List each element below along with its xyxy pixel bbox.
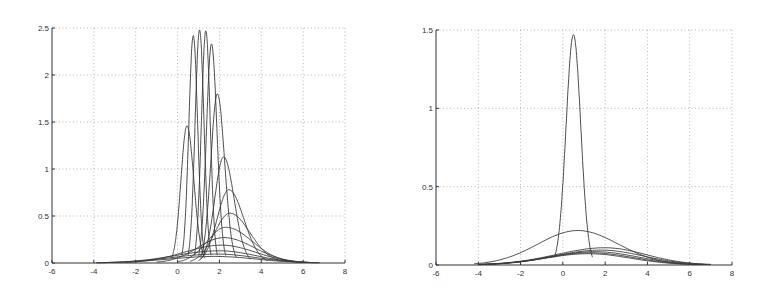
y-tick-label: 0.5 [38, 212, 50, 221]
x-tick-label: 8 [730, 269, 735, 278]
y-tick-label: 2.5 [38, 24, 50, 33]
x-tick-label: 4 [259, 267, 264, 276]
x-tick-label: -6 [432, 269, 440, 278]
y-tick-label: 0 [429, 261, 434, 270]
x-tick-label: 2 [217, 267, 222, 276]
figure-canvas: -6-4-20246800.511.522.5 -6-4-20246800.51… [0, 0, 773, 293]
y-tick-label: 0.5 [422, 183, 434, 192]
x-tick-label: 2 [603, 269, 608, 278]
y-tick-label: 1.5 [422, 26, 434, 35]
right-density-plot: -6-4-20246800.511.5 [422, 26, 735, 278]
x-tick-label: 0 [561, 269, 566, 278]
x-tick-label: 6 [301, 267, 306, 276]
y-tick-label: 1 [45, 165, 50, 174]
x-tick-label: -2 [517, 269, 525, 278]
x-tick-label: 4 [645, 269, 650, 278]
x-tick-label: -6 [48, 267, 56, 276]
y-tick-label: 1 [429, 104, 434, 113]
y-tick-label: 0 [45, 259, 50, 268]
x-tick-label: -4 [475, 269, 483, 278]
x-tick-label: -4 [90, 267, 98, 276]
density-curve-d1 [554, 35, 592, 258]
x-tick-label: 6 [687, 269, 692, 278]
x-tick-label: 8 [343, 267, 348, 276]
y-tick-label: 2 [45, 71, 50, 80]
x-tick-label: 0 [175, 267, 180, 276]
density-curve-c8 [199, 190, 268, 261]
density-curve-c2 [182, 36, 205, 256]
y-tick-label: 1.5 [38, 118, 50, 127]
density-curve-d2 [474, 231, 683, 264]
left-density-plot: -6-4-20246800.511.522.5 [38, 24, 348, 276]
x-tick-label: -2 [132, 267, 140, 276]
